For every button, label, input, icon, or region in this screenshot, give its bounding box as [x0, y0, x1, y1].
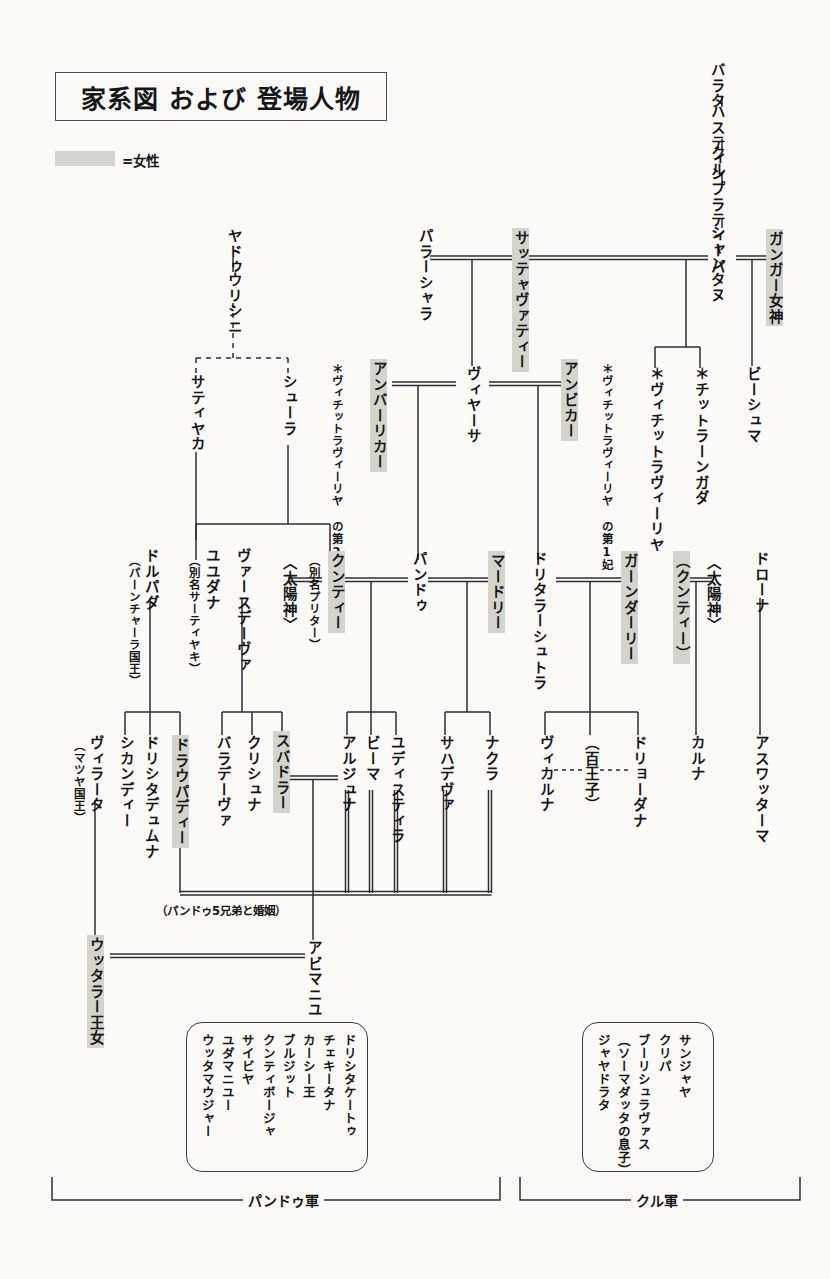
person-arjuna: アルジュナ [340, 735, 355, 813]
person-shikhandi: シカンディー [118, 735, 133, 828]
person-vasudeva: ヴァースデーヴァ [235, 548, 250, 672]
person-yuyudhana: ユユダナ [204, 548, 219, 610]
person-kuru: クル [709, 146, 724, 177]
person-satyavati: サッテャヴァティー [512, 228, 529, 372]
person-drona: ドローナ [753, 551, 768, 613]
person-ambika: アンビカー [561, 359, 578, 441]
note-draupadi-marriage: （パンドゥ5兄弟と婚姻） [156, 902, 286, 918]
legend-female-swatch [55, 151, 115, 166]
person-duryodhana: ドリョーダナ [631, 735, 646, 828]
person-ganga: ガンガー女神 [766, 229, 783, 326]
person-shantanu: シャンタヌ [709, 225, 724, 303]
page-title: 家系図 および 登場人物 [81, 79, 360, 115]
person-barata: バラタ [709, 62, 724, 109]
person-sahadeva: サハデヴァ [438, 735, 453, 813]
person-draupadi: ドラウパディー [172, 735, 189, 848]
person-dhrishtadyumna: ドリシタデュムナ [143, 735, 158, 859]
person-virata-note: （マツヤ国王） [72, 740, 84, 824]
person-bhima: ビーマ [364, 735, 379, 782]
person-abhimanyu: アビマニユ [306, 940, 321, 1018]
family-tree-diagram: 家系図 および 登場人物 =女性 [0, 0, 830, 1279]
kuru-army-label: クル軍 [631, 1190, 683, 1210]
person-dhritarashtra: ドリタラーシュトラ [531, 551, 546, 691]
person-kunti: クンティー [328, 551, 345, 633]
person-drupada-note: （パーンチャーラ国王） [127, 555, 139, 687]
person-subhadra: スバドラー [273, 731, 290, 813]
person-ambika-note: ＊ヴィチットラヴィーリヤ の第1妃 [600, 363, 612, 571]
person-yudhishthira: ユディスティラ [389, 735, 404, 844]
person-yadu: ヤドゥ [226, 228, 241, 275]
person-baladeva: バラデーヴァ [215, 735, 230, 828]
person-gandhari: ガーンダーリー [621, 551, 638, 664]
person-vichitravirya: ＊ヴィチットラヴィーリヤ [648, 366, 663, 552]
person-krishna: クリシュナ [245, 735, 260, 813]
person-ambalika-note: ＊ヴィチットラヴィーリヤ の第2妃 [330, 363, 342, 571]
person-drupada: ドルパダ [143, 548, 158, 610]
person-virata: ヴィラータ [88, 735, 103, 813]
person-karna: カルナ [689, 735, 704, 782]
pandava-army-label: パンドゥ軍 [243, 1190, 324, 1210]
person-nakula: ナクラ [483, 735, 498, 782]
person-bhishma: ビーシュマ [745, 366, 760, 444]
person-vrishni: ウリシニ [226, 272, 241, 334]
person-chitrangada: ＊チットラーンガダ [693, 366, 708, 506]
person-ambalika: アンバーリカー [370, 359, 387, 472]
person-yuyudhana-alias: （別名サーティヤキ） [187, 555, 199, 675]
person-ashwatthama: アスワッターマ [753, 735, 768, 844]
person-kunti-second: （クンティー） [673, 551, 690, 664]
person-surya-kunti: 〈太陽神〉 [281, 555, 296, 633]
person-vyasa: ヴィヤーサ [465, 366, 480, 444]
page-title-box: 家系図 および 登場人物 [55, 72, 387, 121]
person-vikarna: ヴィカルナ [538, 735, 553, 813]
person-satyaka: サティヤカ [189, 374, 204, 452]
person-madri: マードリー [488, 551, 505, 633]
person-hundred-princes: （百王子） [583, 735, 598, 813]
person-shura: シューラ [281, 374, 296, 436]
kuru-army-members: サンジャヤ クリパ ブーリシュラヴァス （ソーマダッタの息子） ジャヤドラタ [592, 1034, 693, 1160]
pandava-army-members: ドリシタケートゥ チェキータナ カーシー王 ブルジット クンティボージャ サイビ… [196, 1034, 358, 1160]
person-parashara: パラーシャラ [417, 228, 432, 321]
person-uttara: ウッタラー王女 [87, 935, 104, 1048]
person-pandu: パンドゥ [411, 551, 426, 613]
legend-female-label: =女性 [122, 150, 159, 170]
person-surya-karna: 〈太陽神〉 [705, 555, 720, 633]
person-kunti-alias: （別名プリター） [307, 555, 319, 651]
